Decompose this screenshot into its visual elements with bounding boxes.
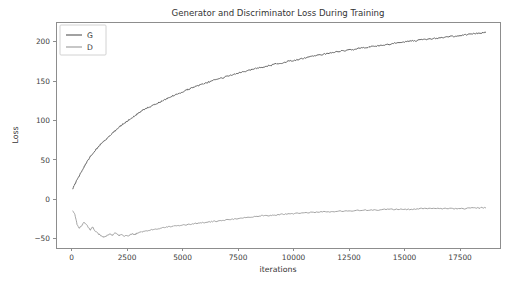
x-tick-label: 12500 bbox=[337, 253, 361, 262]
legend-frame bbox=[60, 25, 106, 55]
x-tick-label: 0 bbox=[69, 253, 74, 262]
loss-chart: Generator and Discriminator Loss During … bbox=[0, 0, 517, 287]
x-tick-label: 10000 bbox=[282, 253, 306, 262]
y-tick-label: −50 bbox=[34, 234, 50, 243]
x-axis-title: iterations bbox=[259, 265, 296, 274]
chart-title: Generator and Discriminator Loss During … bbox=[172, 8, 385, 18]
y-tick-label: 0 bbox=[45, 195, 50, 204]
x-tick-label: 2500 bbox=[118, 253, 137, 262]
x-tick-label: 17500 bbox=[448, 253, 472, 262]
legend-label-d[interactable]: D bbox=[87, 43, 93, 52]
x-tick-label: 5000 bbox=[173, 253, 192, 262]
y-tick-label: 200 bbox=[36, 37, 50, 46]
chart-figure: Generator and Discriminator Loss During … bbox=[0, 0, 517, 287]
legend-label-g[interactable]: G bbox=[87, 31, 93, 40]
y-axis-title: Loss bbox=[11, 126, 20, 143]
y-tick-label: 100 bbox=[36, 116, 50, 125]
x-tick-label: 7500 bbox=[229, 253, 248, 262]
chart-legend[interactable]: GD bbox=[60, 25, 106, 55]
x-tick-label: 15000 bbox=[393, 253, 417, 262]
y-tick-label: 150 bbox=[36, 77, 50, 86]
y-tick-label: 50 bbox=[41, 156, 51, 165]
